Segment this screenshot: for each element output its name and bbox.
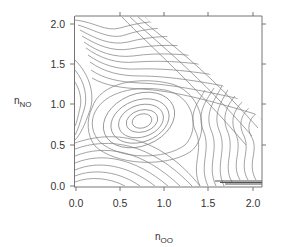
y-tick-label: 0.0 — [50, 180, 65, 192]
y-axis-label: nNO — [14, 95, 32, 109]
y-tick-label: 1.5 — [50, 58, 65, 70]
x-tick-label: 0.0 — [69, 197, 84, 209]
y-tick-labels: 2.0 1.5 1.0 0.5 0.0 — [50, 18, 65, 192]
y-tick-label: 1.0 — [50, 98, 65, 110]
x-tick-labels: 0.0 0.5 1.0 1.5 2.0 — [69, 197, 261, 209]
x-tick-label: 1.5 — [201, 197, 216, 209]
x-tick-label: 2.0 — [246, 197, 261, 209]
y-tick-label: 0.5 — [50, 139, 65, 151]
contour-plot: 0.0 0.5 1.0 1.5 2.0 2.0 1.5 1.0 0.5 0.0 … — [0, 0, 281, 247]
y-tick-label: 2.0 — [50, 18, 65, 30]
x-tick-label: 1.0 — [157, 197, 172, 209]
contour-lines — [75, 17, 262, 186]
x-axis-label: nOO — [155, 231, 173, 245]
x-tick-label: 0.5 — [113, 197, 128, 209]
